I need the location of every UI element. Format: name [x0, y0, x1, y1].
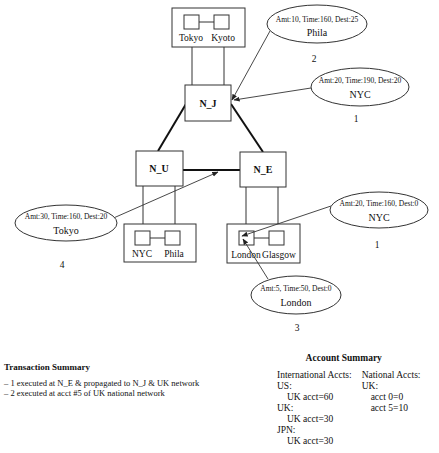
city-label: London — [231, 250, 261, 260]
svg-text:3: 3 — [295, 323, 300, 333]
backbone-node-nj: N_J — [185, 85, 231, 121]
national-network-us: NYC Phila — [124, 224, 196, 262]
svg-text:Amt:20, Time:190, Dest:20: Amt:20, Time:190, Dest:20 — [319, 76, 402, 85]
svg-text:2: 2 — [312, 54, 317, 64]
transaction-1-nyc-bottom: Amt:20, Time:160, Dest:0 NYC 1 — [330, 192, 428, 250]
transaction-summary-title: Transaction Summary — [4, 362, 199, 372]
national-network-uk: London Glasgow — [227, 224, 300, 263]
transaction-3-london: Amt:5, Time:50, Dest:0 London 3 — [251, 276, 341, 333]
city-label: Kyoto — [211, 33, 235, 43]
transaction-2-phila: Amt:10, Time:160, Dest:25 Phila 2 — [267, 5, 367, 64]
country-label: UK: — [277, 403, 352, 414]
city-label: Glasgow — [262, 250, 296, 260]
svg-text:N_J: N_J — [199, 98, 216, 109]
svg-text:London: London — [280, 297, 311, 308]
national-network-japan: Tokyo Kyoto — [172, 8, 245, 47]
svg-text:Tokyo: Tokyo — [53, 225, 78, 236]
country-label: JPN: — [277, 425, 352, 436]
transaction-summary-item: – 1 executed at N_E & propagated to N_J … — [4, 378, 199, 388]
svg-text:NYC: NYC — [349, 89, 370, 100]
international-accounts: International Accts: US: UK acct=60 UK: … — [277, 370, 352, 447]
country-label: UK: — [362, 381, 421, 392]
network-diagram: Tokyo Kyoto NYC Phila London Glasgow N_J… — [0, 0, 439, 340]
account-entry: acct 5=10 — [362, 403, 421, 414]
svg-text:Amt:10, Time:160, Dest:25: Amt:10, Time:160, Dest:25 — [276, 15, 359, 24]
transaction-summary-item: – 2 executed at acct #5 of UK national n… — [4, 388, 199, 398]
national-links — [143, 47, 278, 224]
international-heading: International Accts: — [277, 370, 352, 381]
svg-text:NYC: NYC — [368, 212, 389, 223]
svg-text:1: 1 — [354, 114, 359, 124]
account-summary: Account Summary International Accts: US:… — [277, 353, 421, 447]
svg-text:Amt:5, Time:50, Dest:0: Amt:5, Time:50, Dest:0 — [260, 284, 332, 293]
svg-text:N_U: N_U — [149, 163, 168, 174]
account-entry: acct 0=0 — [362, 392, 421, 403]
city-label: Tokyo — [179, 33, 203, 43]
svg-text:N_E: N_E — [254, 164, 273, 175]
backbone-node-ne: N_E — [240, 152, 286, 187]
country-label: US: — [277, 381, 352, 392]
city-label: Phila — [164, 249, 184, 259]
svg-text:4: 4 — [60, 260, 65, 270]
national-heading: National Accts: — [362, 370, 421, 381]
account-entry: UK acct=30 — [277, 414, 352, 425]
svg-text:Amt:30, Time:160, Dest:20: Amt:30, Time:160, Dest:20 — [25, 212, 108, 221]
city-label: NYC — [132, 249, 152, 259]
svg-text:1: 1 — [375, 240, 380, 250]
transaction-1-nyc-top: Amt:20, Time:190, Dest:20 NYC 1 — [311, 68, 409, 124]
account-summary-title: Account Summary — [267, 353, 421, 364]
account-entry: UK acct=60 — [277, 392, 352, 403]
transaction-summary: Transaction Summary – 1 executed at N_E … — [4, 362, 199, 398]
national-accounts: National Accts: UK: acct 0=0 acct 5=10 — [362, 370, 421, 447]
svg-text:Amt:20, Time:160, Dest:0: Amt:20, Time:160, Dest:0 — [340, 199, 419, 208]
backbone-node-nu: N_U — [136, 151, 183, 186]
account-entry: UK acct=30 — [277, 436, 352, 447]
transaction-4-tokyo: Amt:30, Time:160, Dest:20 Tokyo 4 — [15, 205, 117, 270]
svg-text:Phila: Phila — [307, 27, 328, 38]
